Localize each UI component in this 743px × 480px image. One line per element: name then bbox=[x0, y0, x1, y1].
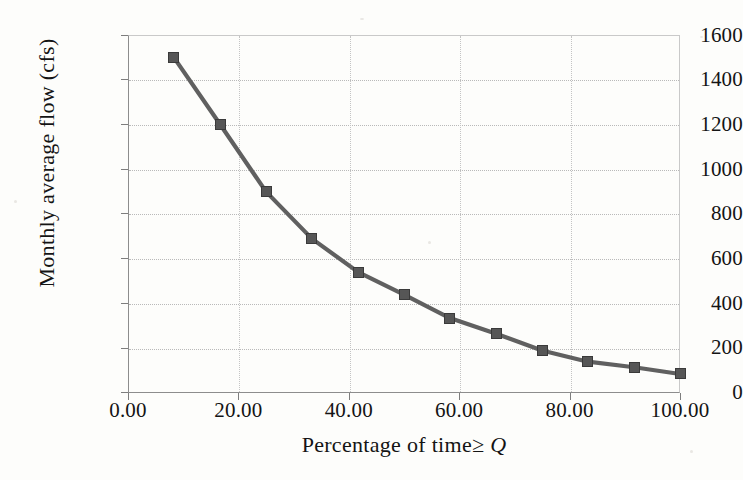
x-axis-title-text: Percentage of time bbox=[302, 432, 472, 457]
x-axis-title-symbol: ≥ Q bbox=[472, 432, 506, 457]
data-point-marker bbox=[306, 233, 317, 244]
y-tick-mark bbox=[121, 348, 128, 349]
y-tick-mark bbox=[121, 213, 128, 214]
gridline-vertical bbox=[571, 36, 572, 392]
data-point-marker bbox=[168, 52, 179, 63]
gridline-vertical bbox=[350, 36, 351, 392]
x-tick-label: 100.00 bbox=[625, 399, 735, 421]
data-point-marker bbox=[491, 328, 502, 339]
data-point-marker bbox=[353, 267, 364, 278]
scan-speck bbox=[360, 18, 364, 20]
chart-figure: Monthly average flow (cfs) 1600 1400 120… bbox=[0, 0, 743, 480]
x-tick-label: 20.00 bbox=[183, 399, 293, 421]
data-point-marker bbox=[629, 362, 640, 373]
gridline-horizontal bbox=[129, 259, 679, 260]
x-tick-label: 60.00 bbox=[404, 399, 514, 421]
gridline-horizontal bbox=[129, 214, 679, 215]
x-axis-title: Percentage of time≥ Q bbox=[128, 432, 680, 458]
data-point-marker bbox=[537, 345, 548, 356]
x-tick-label: 40.00 bbox=[294, 399, 404, 421]
x-tick-label: 0.00 bbox=[73, 399, 183, 421]
plot-area bbox=[128, 35, 680, 393]
data-point-marker bbox=[215, 119, 226, 130]
data-point-marker bbox=[675, 368, 686, 379]
y-tick-mark bbox=[121, 79, 128, 80]
gridline-horizontal bbox=[129, 304, 679, 305]
y-tick-mark bbox=[121, 258, 128, 259]
gridline-horizontal bbox=[129, 349, 679, 350]
data-point-marker bbox=[261, 186, 272, 197]
y-axis-title: Monthly average flow (cfs) bbox=[34, 0, 60, 328]
gridline-vertical bbox=[460, 36, 461, 392]
y-tick-mark bbox=[121, 124, 128, 125]
gridline-horizontal bbox=[129, 170, 679, 171]
data-point-marker bbox=[399, 289, 410, 300]
gridline-vertical bbox=[239, 36, 240, 392]
scan-speck bbox=[14, 200, 17, 203]
gridline-horizontal bbox=[129, 125, 679, 126]
x-tick-label: 80.00 bbox=[515, 399, 625, 421]
y-tick-mark bbox=[121, 169, 128, 170]
scan-speck bbox=[690, 450, 693, 453]
data-point-marker bbox=[444, 313, 455, 324]
y-tick-mark bbox=[121, 303, 128, 304]
y-tick-mark bbox=[121, 392, 128, 393]
data-point-marker bbox=[582, 356, 593, 367]
gridline-horizontal bbox=[129, 80, 679, 81]
y-tick-mark bbox=[121, 35, 128, 36]
